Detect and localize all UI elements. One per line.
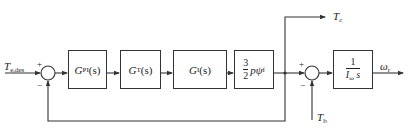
block-g-t: GT(s) bbox=[120, 50, 161, 89]
block-g-i: GI(s) bbox=[173, 50, 227, 89]
block-torque-constant: 32 pψf bbox=[234, 50, 274, 89]
block-plant: 1 Iω s bbox=[333, 50, 373, 89]
fraction-inverse-inertia: 1 Iω s bbox=[346, 57, 360, 83]
sum1-plus-sign: + bbox=[37, 60, 42, 69]
fraction-three-halves: 32 bbox=[243, 58, 248, 82]
disturbance-label: Tb bbox=[317, 112, 327, 125]
sum2-minus-sign: − bbox=[300, 81, 305, 90]
sum2-plus-sign: + bbox=[299, 60, 304, 69]
block-g-pi: GPI(s) bbox=[68, 50, 107, 89]
branch-output-label: Tc bbox=[333, 11, 342, 24]
sum1-minus-sign: − bbox=[37, 81, 42, 90]
input-label: Te,des bbox=[4, 61, 24, 74]
output-label: ωr bbox=[380, 61, 390, 74]
